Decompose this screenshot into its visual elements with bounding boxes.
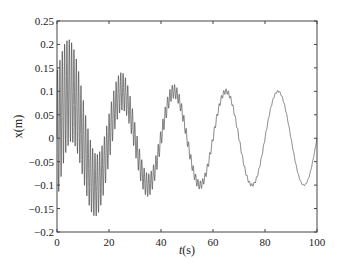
y-tick-label: −0.15 [29, 203, 55, 215]
line-chart: 020406080100 −0.2−0.15−0.1−0.0500.050.10… [0, 0, 343, 271]
y-tick-label: 0.05 [35, 109, 55, 121]
signal-curve [57, 40, 317, 216]
y-tick-label: 0.1 [40, 85, 54, 97]
signal-line [57, 40, 317, 216]
x-tick-label: 20 [104, 236, 116, 248]
x-tick-label: 0 [54, 236, 60, 248]
x-tick-label: 80 [260, 236, 272, 248]
y-tick-label: 0.25 [35, 15, 55, 27]
y-tick-label: −0.2 [34, 226, 54, 238]
y-tick-label: −0.1 [34, 179, 54, 191]
y-tick-label: 0 [49, 132, 55, 144]
y-tick-label: −0.05 [29, 156, 55, 168]
x-tick-label: 60 [208, 236, 220, 248]
y-tick-label: 0.2 [40, 38, 54, 50]
y-axis-label: x(m) [11, 115, 25, 138]
x-tick-label: 100 [309, 236, 326, 248]
x-tick-label: 40 [156, 236, 168, 248]
x-axis-label: t(s) [179, 243, 195, 257]
y-tick-label: 0.15 [35, 62, 55, 74]
y-tick-labels: −0.2−0.15−0.1−0.0500.050.10.150.20.25 [29, 15, 55, 238]
